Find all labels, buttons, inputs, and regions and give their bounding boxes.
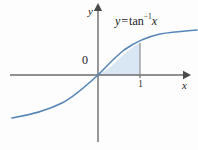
equation-label: y=tan−1x: [115, 14, 157, 27]
y-axis-arrowhead: [94, 3, 102, 11]
equation-argument: x: [152, 14, 157, 28]
equation-equals-sign: =: [120, 14, 129, 28]
x-axis-label: x: [182, 80, 187, 91]
shaded-area-region: [98, 43, 140, 75]
x-tick-label-one: 1: [138, 79, 143, 89]
arctan-figure: y x 0 1 y=tan−1x: [0, 0, 198, 150]
x-axis-arrowhead: [183, 71, 191, 79]
plot-canvas: [0, 0, 198, 150]
y-axis-label: y: [88, 6, 93, 17]
equation-function-name: tan: [129, 14, 144, 28]
origin-label: 0: [82, 54, 88, 66]
equation-exponent: −1: [144, 12, 152, 21]
